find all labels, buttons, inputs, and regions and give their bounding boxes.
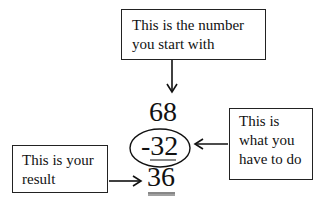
subtraction-diagram: This is the number you start with This i… [0, 0, 328, 204]
arrow-left-icon [195, 139, 228, 149]
arrow-down-icon [167, 60, 177, 92]
circle-annotation [130, 129, 190, 167]
arrows-layer [0, 0, 328, 204]
arrow-right-icon [109, 176, 141, 186]
